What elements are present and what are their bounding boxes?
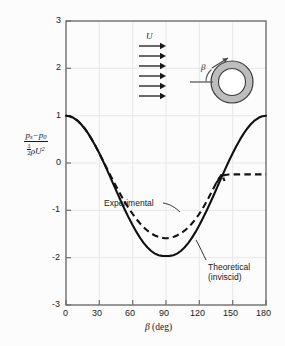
xtick-label-120: 120 — [190, 308, 205, 318]
ytick-label-neg2: -2 — [52, 252, 60, 262]
x-axis-title-unit: (deg) — [152, 322, 172, 332]
inset-angle-label: β — [201, 62, 205, 72]
xtick-label-180: 180 — [256, 308, 271, 318]
y-axis-denominator: 1 2 ρU2 — [24, 143, 49, 156]
y-axis-numerator: ps−p0 — [24, 131, 49, 141]
ytick-label-1: 1 — [56, 110, 61, 120]
ytick-label-neg1: -1 — [52, 204, 60, 214]
xtick-label-150: 150 — [223, 308, 238, 318]
cylinder-inner-core — [219, 69, 246, 96]
annotation-theoretical-line1: Theoretical — [208, 262, 250, 272]
ytick-label-2: 2 — [56, 62, 61, 72]
y-axis-fraction: ps−p0 1 2 ρU2 — [24, 131, 49, 156]
xtick-label-30: 30 — [92, 308, 102, 318]
x-axis-title: β (deg) — [145, 322, 172, 332]
pressure-distribution-chart — [0, 0, 285, 346]
ytick-label-3: 3 — [56, 15, 61, 25]
chart-background — [0, 0, 285, 346]
annotation-theoretical-line2: (inviscid) — [208, 272, 242, 282]
ytick-label-0: 0 — [56, 157, 61, 167]
y-den-exponent: 2 — [42, 145, 45, 152]
annotation-experimental: Experimental — [104, 198, 154, 208]
inset-velocity-label: U — [146, 31, 153, 41]
x-axis-title-symbol: β — [145, 322, 150, 332]
xtick-label-0: 0 — [63, 308, 68, 318]
ytick-label-neg3: -3 — [52, 299, 60, 309]
xtick-label-60: 60 — [125, 308, 135, 318]
y-axis-label: ps−p0 1 2 ρU2 — [10, 131, 62, 158]
y-num-sub-0: 0 — [43, 133, 46, 140]
xtick-label-90: 90 — [159, 308, 169, 318]
